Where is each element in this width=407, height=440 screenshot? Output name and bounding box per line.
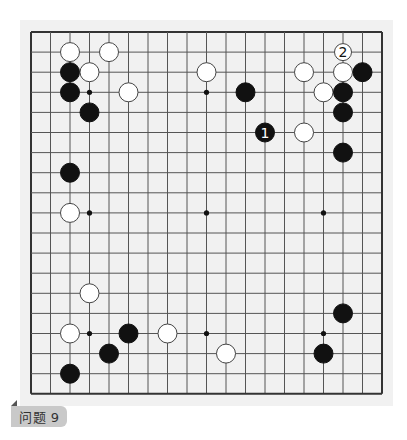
white-stone[interactable] [295,123,314,142]
star-point [87,210,92,215]
star-point [204,90,209,95]
black-stone[interactable] [334,83,353,102]
black-stone[interactable] [314,344,333,363]
white-stone[interactable] [158,324,177,343]
problem-label-tab: 问题 9 [11,406,67,427]
black-stone[interactable] [61,83,80,102]
black-stone[interactable] [61,63,80,82]
go-board[interactable]: 21 [0,0,407,440]
black-stone[interactable] [61,163,80,182]
star-point [87,90,92,95]
star-point [204,331,209,336]
white-stone[interactable] [100,43,119,62]
white-stone[interactable] [61,203,80,222]
white-stone[interactable] [61,43,80,62]
white-stone[interactable] [80,284,99,303]
star-point [204,210,209,215]
white-stone[interactable] [119,83,138,102]
star-point [87,331,92,336]
black-stone[interactable] [80,103,99,122]
white-stone[interactable] [61,324,80,343]
star-point [321,210,326,215]
black-stone[interactable] [119,324,138,343]
white-stone[interactable] [217,344,236,363]
white-stone[interactable] [314,83,333,102]
black-stone[interactable] [236,83,255,102]
move-number: 2 [339,44,348,60]
black-stone[interactable] [353,63,372,82]
black-stone[interactable] [334,143,353,162]
white-stone[interactable]: 2 [335,44,352,61]
problem-label: 问题 9 [19,407,59,426]
black-stone[interactable] [334,304,353,323]
black-stone[interactable] [61,364,80,383]
white-stone[interactable] [295,63,314,82]
move-number: 1 [261,125,270,141]
white-stone[interactable] [334,63,353,82]
white-stone[interactable] [80,63,99,82]
black-stone[interactable] [334,103,353,122]
black-stone[interactable] [100,344,119,363]
white-stone[interactable] [197,63,216,82]
black-stone[interactable]: 1 [256,123,275,142]
star-point [321,331,326,336]
